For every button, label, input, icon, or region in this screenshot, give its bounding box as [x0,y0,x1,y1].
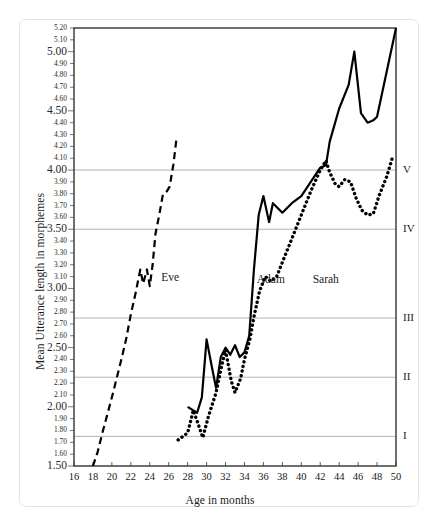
y-tick-label: 4.70 [54,83,67,90]
stage-label-i: I [403,430,407,441]
y-tick-label: 3.60 [54,213,67,220]
y-tick-label: 4.10 [54,154,67,161]
y-tick-label: 4.20 [54,142,67,149]
y-tick-label: 3.90 [54,178,67,185]
stage-label-ii: II [403,371,410,382]
stage-label-v: V [403,164,411,175]
y-tick-label: 2.90 [54,296,67,303]
y-tick-label: 5.00 [47,46,67,58]
chart-container: Mean Utterance length in morphemes Age i… [0,0,440,526]
y-tick-label: 2.50 [47,342,67,354]
y-tick-label: 3.50 [47,223,67,235]
y-tick-label: 4.40 [54,119,67,126]
y-axis-title: Mean Utterance length in morphemes [34,193,46,370]
stage-label-iii: III [403,312,414,323]
y-tick-label: 3.70 [54,202,67,209]
y-tick-label: 2.30 [54,367,67,374]
y-tick-label: 3.40 [54,237,67,244]
y-tick-label: 2.20 [54,379,67,386]
y-tick-label: 2.00 [47,401,67,413]
x-tick-label: 50 [382,472,410,483]
y-tick-label: 3.30 [54,249,67,256]
y-tick-label: 1.80 [54,426,67,433]
x-axis-title: Age in months [0,494,440,506]
y-tick-label: 2.70 [54,320,67,327]
series-label-sarah: Sarah [313,274,339,286]
y-tick-label: 3.10 [54,273,67,280]
series-label-eve: Eve [161,272,179,284]
y-tick-label: 4.80 [54,71,67,78]
y-tick-label: 3.20 [54,261,67,268]
y-tick-label: 4.50 [47,105,67,117]
series-label-adam: Adam [257,274,285,286]
y-tick-label: 3.00 [47,282,67,294]
y-tick-label: 5.20 [54,24,67,31]
y-tick-label: 2.10 [54,391,67,398]
y-tick-label: 4.00 [47,164,67,176]
y-tick-label: 4.60 [54,95,67,102]
y-tick-label: 3.80 [54,190,67,197]
y-tick-label: 1.60 [54,450,67,457]
y-tick-label: 1.90 [54,415,67,422]
y-tick-label: 2.40 [54,355,67,362]
stage-label-iv: IV [403,223,415,234]
y-tick-label: 4.90 [54,60,67,67]
y-tick-label: 2.80 [54,308,67,315]
y-tick-label: 2.60 [54,332,67,339]
y-tick-label: 5.10 [54,36,67,43]
y-tick-label: 4.30 [54,131,67,138]
y-tick-label: 1.50 [47,460,67,472]
y-tick-label: 1.70 [54,438,67,445]
